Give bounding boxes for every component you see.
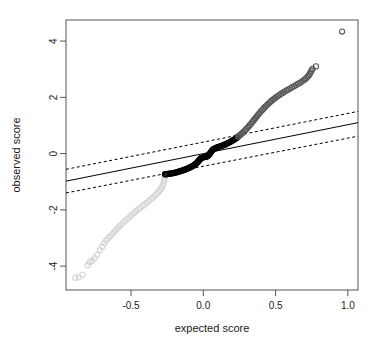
y-tick-label: 4: [48, 38, 59, 44]
x-axis-label: expected score: [175, 322, 250, 334]
x-tick-label: 0.5: [269, 300, 283, 311]
y-tick-labels: 420-2-4: [48, 38, 59, 271]
y-tick-label: 2: [48, 94, 59, 100]
y-tick-label: -2: [48, 205, 59, 214]
x-tick-label: 0.0: [196, 300, 210, 311]
y-tick-label: 0: [48, 150, 59, 156]
x-tick-label: 1.0: [341, 300, 355, 311]
central-points: [162, 134, 240, 177]
y-axis-label: observed score: [10, 117, 22, 192]
x-tick-labels: -0.50.00.51.0: [122, 300, 355, 311]
lower-tail-points: [73, 172, 168, 280]
y-tick-label: -4: [48, 261, 59, 270]
lower-confidence-band: [66, 136, 358, 193]
axis-ticks-group: [60, 41, 348, 296]
extreme-outlier: [340, 29, 345, 34]
x-tick-label: -0.5: [122, 300, 140, 311]
qq-plot-canvas: -0.50.00.51.0 420-2-4 expected score obs…: [0, 0, 384, 350]
data-point: [80, 272, 85, 277]
data-points-group: [73, 29, 345, 280]
data-point: [340, 29, 345, 34]
upper-confidence-band: [66, 111, 358, 169]
qq-plot-figure: -0.50.00.51.0 420-2-4 expected score obs…: [0, 0, 384, 350]
